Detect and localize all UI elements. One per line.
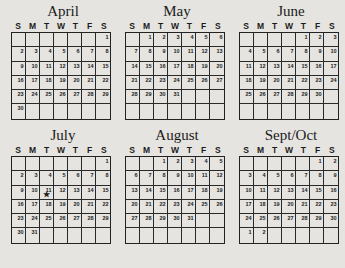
day-cell: 11★: [40, 186, 54, 200]
weekday-label: T: [154, 20, 168, 32]
day-cell: 3: [240, 171, 254, 185]
day-cell: 4: [182, 33, 196, 47]
day-cell: 16: [324, 186, 338, 200]
day-cell: 5: [54, 47, 68, 61]
day-cell: 13: [210, 47, 224, 61]
day-cell: 3: [324, 33, 338, 47]
weekday-label: T: [154, 144, 168, 156]
day-cell: 4: [240, 47, 254, 61]
weekday-label: M: [253, 144, 267, 156]
weekday-label: T: [182, 144, 196, 156]
day-cell: 6: [68, 47, 82, 61]
empty-cell: [168, 104, 182, 118]
day-cell: 8: [296, 47, 310, 61]
day-grid: 1234567891011121314151617181920212223242…: [125, 32, 225, 120]
empty-cell: [82, 33, 96, 47]
empty-cell: [82, 104, 96, 118]
empty-cell: [310, 228, 324, 242]
day-cell: 6: [68, 171, 82, 185]
day-cell: 29: [296, 90, 310, 104]
day-cell: 31: [182, 214, 196, 228]
empty-cell: [196, 228, 210, 242]
weekday-header-row: SMTWTFS: [239, 144, 339, 156]
day-cell: 26: [254, 90, 268, 104]
day-cell: 7: [82, 47, 96, 61]
day-cell: 24: [324, 76, 338, 90]
empty-cell: [296, 157, 310, 171]
day-cell: 16: [310, 62, 324, 76]
day-cell: 15: [96, 62, 110, 76]
day-cell: 12: [210, 171, 224, 185]
day-cell: 23: [168, 200, 182, 214]
day-cell: 27: [268, 90, 282, 104]
day-cell: 25: [254, 214, 268, 228]
day-cell: 7: [126, 47, 140, 61]
empty-cell: [96, 104, 110, 118]
empty-cell: [240, 104, 254, 118]
empty-cell: [26, 104, 40, 118]
day-cell: 29: [310, 214, 324, 228]
day-cell: 21: [126, 76, 140, 90]
day-cell: 7: [140, 171, 154, 185]
month-title: August: [129, 126, 225, 144]
day-cell: 5: [254, 47, 268, 61]
day-cell: 26: [54, 214, 68, 228]
day-cell: 4: [196, 157, 210, 171]
empty-cell: [210, 214, 224, 228]
day-cell: 28: [296, 214, 310, 228]
weekday-label: M: [253, 20, 267, 32]
empty-cell: [254, 33, 268, 47]
day-cell: 8: [140, 47, 154, 61]
day-cell: 18: [240, 76, 254, 90]
empty-cell: [268, 228, 282, 242]
day-cell: 17: [26, 200, 40, 214]
day-cell: 17: [182, 186, 196, 200]
day-cell: 15: [96, 186, 110, 200]
day-cell: 4: [40, 171, 54, 185]
day-cell: 26: [54, 90, 68, 104]
day-cell: 20: [126, 200, 140, 214]
weekday-label: T: [296, 144, 310, 156]
day-grid: 1234567891011121314151617181920212223242…: [11, 32, 111, 120]
day-cell: 27: [126, 214, 140, 228]
weekday-label: T: [40, 20, 54, 32]
star-icon: ★: [40, 191, 53, 199]
day-cell: 16: [168, 186, 182, 200]
day-cell: 9: [310, 47, 324, 61]
weekday-header-row: SMTWTFS: [239, 20, 339, 32]
empty-cell: [254, 157, 268, 171]
day-cell: 22: [140, 76, 154, 90]
day-cell: 28: [126, 90, 140, 104]
day-cell: 30: [310, 90, 324, 104]
day-cell: 2: [12, 171, 26, 185]
empty-cell: [182, 104, 196, 118]
weekday-header-row: SMTWTFS: [125, 144, 225, 156]
day-cell: 14: [296, 186, 310, 200]
day-cell: 10: [26, 62, 40, 76]
day-cell: 7: [82, 171, 96, 185]
day-cell: 13: [268, 62, 282, 76]
empty-cell: [240, 157, 254, 171]
day-cell: 30: [12, 104, 26, 118]
empty-cell: [210, 104, 224, 118]
day-cell: 10: [168, 47, 182, 61]
empty-cell: [54, 33, 68, 47]
empty-cell: [12, 157, 26, 171]
empty-cell: [140, 157, 154, 171]
day-cell: 27: [282, 214, 296, 228]
day-cell: 3: [26, 47, 40, 61]
empty-cell: [324, 104, 338, 118]
day-cell: 3: [182, 157, 196, 171]
weekday-label: S: [11, 144, 25, 156]
day-cell: 11: [196, 171, 210, 185]
calendar-april: April SMTWTFS 12345678910111213141516171…: [11, 2, 111, 120]
day-cell: 11: [40, 62, 54, 76]
day-cell: 2: [310, 33, 324, 47]
day-cell: 2: [254, 228, 268, 242]
day-cell: 1: [240, 228, 254, 242]
day-cell: 19: [196, 62, 210, 76]
empty-cell: [68, 33, 82, 47]
day-cell: 14: [126, 62, 140, 76]
empty-cell: [282, 228, 296, 242]
weekday-label: M: [139, 144, 153, 156]
